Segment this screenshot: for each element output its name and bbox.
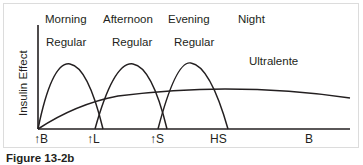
x-tick-label-bedtime: HS [210, 133, 227, 145]
period-label-evening: Evening [168, 14, 210, 26]
x-tick-label-supper: ↑S [150, 133, 164, 145]
series-label-regular-evening: Regular [174, 37, 214, 49]
x-tick-label-breakfast: ↑B [34, 133, 48, 145]
insulin-effect-figure: Insulin Effect Morning Afternoon Evening… [0, 0, 363, 165]
figure-caption: Figure 13-2b [6, 152, 74, 164]
ultralente-curve [38, 89, 350, 129]
x-tick-label-lunch: ↑L [87, 133, 100, 145]
series-label-regular-afternoon: Regular [112, 37, 152, 49]
regular-curve-afternoon [95, 64, 167, 129]
period-label-afternoon: Afternoon [103, 14, 153, 26]
regular-curve-morning [38, 64, 103, 129]
x-tick-label-breakfast-next: B [305, 133, 313, 145]
regular-insulin-curves [38, 63, 228, 129]
series-label-ultralente: Ultralente [249, 56, 298, 68]
series-label-regular-morning: Regular [46, 37, 86, 49]
regular-curve-evening [158, 63, 228, 129]
period-label-night: Night [238, 14, 265, 26]
y-axis-title: Insulin Effect [18, 50, 30, 116]
period-label-morning: Morning [45, 14, 87, 26]
